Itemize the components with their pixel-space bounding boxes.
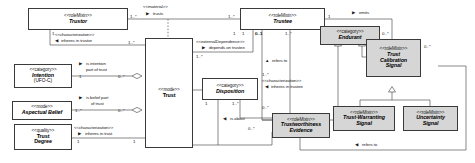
class-trust-warranting-signal[interactable]: <<roleMixin>> Trust-Warranting Signal (333, 106, 395, 131)
relation-refers-to-lower-name: refers to (362, 143, 377, 148)
class-trust-warranting-signal-name-line2: Signal (356, 121, 372, 127)
multiplicity-intention-left: 1 (79, 74, 81, 79)
multiplicity-tcs-top: 0..* (382, 31, 389, 36)
multiplicity-is-about-below: 0..* (248, 126, 255, 131)
class-disposition-name: Disposition (216, 89, 244, 95)
relation-refers-to-upper-arrow: ▲ (265, 59, 269, 64)
class-trustee[interactable]: <<roleMixin>> Trustee (240, 8, 325, 30)
class-uncertainty-signal[interactable]: <<roleMixin>> Uncertainty Signal (403, 106, 458, 131)
relation-refers-to-upper-name: refers to (272, 59, 287, 64)
multiplicity-inheres-trustor-right: 1..* (128, 40, 135, 45)
multiplicity-disposition-left: 1 (205, 101, 207, 106)
multiplicity-trustee-l3: 1..* (285, 31, 292, 36)
multiplicity-intention-right: 0..* (118, 74, 125, 79)
relation-depends-on-trustee-arrow: ▶ (202, 46, 205, 51)
class-trustworthiness-evidence-name-line2: Evidence (290, 128, 313, 134)
multiplicity-depends-right: 0..1 (255, 31, 262, 36)
class-trustor-name: Trustor (69, 19, 87, 25)
multiplicity-belief-right: 0..* (118, 108, 125, 113)
multiplicity-depends-left: 1 (233, 31, 235, 36)
multiplicity-trustor-right: 1..* (130, 14, 137, 19)
class-trust-degree[interactable]: <<quality>> Trust Degree (14, 124, 72, 150)
multiplicity-inheres-trustee-below: 0..* (262, 105, 269, 110)
class-endurant-name: Endurant (339, 35, 362, 41)
class-trustworthiness-evidence[interactable]: <<roleMixin>> Trustworthiness Evidence (272, 113, 330, 138)
multiplicity-trustor-bottom: 1 (52, 31, 54, 36)
relation-inheres-in-trust-arrow: ▶ (78, 132, 81, 137)
multiplicity-depends-below: 1..* (196, 54, 203, 59)
relation-refers-to-lower-arrow: ◀ (355, 143, 358, 148)
multiplicity-trustee-l1: 1 (242, 31, 244, 36)
class-uncertainty-signal-name-line2: Signal (423, 121, 439, 127)
relation-inheres-in-trustee-arrow: ◀ (265, 85, 268, 90)
class-trust[interactable]: <<mode>> Trust (145, 38, 193, 148)
relation-emits-arrow: ▶ (352, 11, 355, 16)
class-intention[interactable]: <<category>> Intention (UFO-C) (14, 64, 72, 88)
multiplicity-inheres-trust-right: 1 (133, 139, 135, 144)
relation-trusts-stereotype: <<material>> (143, 5, 168, 10)
relation-trusts-name: trusts (153, 12, 163, 17)
multiplicity-tcs-right: 0..* (424, 44, 431, 49)
class-intention-subtitle: (UFO-C) (34, 79, 52, 84)
class-trust-calibration-signal[interactable]: <<roleMixin>> Trust Calibration Signal (366, 39, 421, 77)
relation-inheres-in-trust-name: inheres in trust (85, 132, 112, 137)
class-trustee-name: Trustee (273, 19, 292, 25)
relation-inheres-in-trustor-name: inheres in trustor (61, 39, 92, 44)
class-trust-name: Trust (163, 93, 176, 99)
class-trust-degree-name-line2: Degree (34, 139, 52, 145)
class-disposition[interactable]: <<category>> Disposition (202, 78, 258, 100)
relation-inheres-in-trustee-name: inheres in trustee (271, 85, 303, 90)
multiplicity-trusts-right: 1..* (228, 14, 235, 19)
class-trust-calibration-signal-name-line3: Signal (386, 63, 402, 69)
class-aspectual-belief-name: Aspectual Belief (22, 110, 62, 116)
relation-is-intention-part-arrow: ▶ (79, 62, 82, 67)
multiplicity-inheres-trustee-above: 1..* (262, 72, 269, 77)
relation-emits-name: emits (359, 11, 369, 16)
relation-trusts-arrow: ▶ (146, 12, 149, 17)
multiplicity-belief-left: 1..* (75, 108, 82, 113)
relation-inheres-in-trustor-arrow: ◀ (55, 39, 58, 44)
relation-is-belief-part-arrow: ▶ (79, 96, 82, 101)
relation-is-about-arrow: ◀ (223, 117, 226, 122)
multiplicity-disposition-right: 1..* (232, 101, 239, 106)
relation-is-belief-part-name-line2: of trust (91, 102, 104, 107)
relation-is-about-name: is about (230, 117, 245, 122)
class-trustor[interactable]: <<roleMixin>> Trustor (28, 8, 128, 30)
relation-depends-on-trustee-name: depends on trustee (209, 46, 245, 51)
multiplicity-trustee-emits: 1 (328, 14, 330, 19)
class-aspectual-belief[interactable]: <<mode>> Aspectual Belief (12, 101, 72, 120)
multiplicity-inheres-trust-left: 1 (77, 139, 79, 144)
relation-is-intention-part-name-line2: part of trust (86, 68, 107, 73)
diagram-canvas: <<roleMixin>> Trustor <<roleMixin>> Trus… (0, 0, 475, 163)
